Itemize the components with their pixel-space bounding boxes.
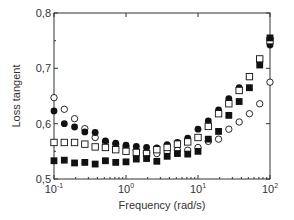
filled-square-marker <box>92 161 99 168</box>
x-tick-label: 102 <box>262 182 278 195</box>
open-circle-marker <box>246 111 252 117</box>
open-circle-icon <box>61 106 67 112</box>
open-square-icon <box>174 141 180 147</box>
open-circle-icon <box>236 119 242 125</box>
open-square-icon <box>123 148 129 154</box>
filled-square-icon <box>225 112 232 119</box>
open-square-marker <box>185 139 191 145</box>
filled-square-marker <box>112 159 119 166</box>
open-square-marker <box>226 101 232 107</box>
open-circle-icon <box>226 126 232 132</box>
filled-circle-marker <box>195 126 202 133</box>
filled-square-marker <box>81 159 88 166</box>
filled-square-marker <box>51 157 58 164</box>
data-points <box>51 35 274 168</box>
open-square-icon <box>82 141 88 147</box>
y-axis-ticks: 0,50,60,70,8 <box>36 7 270 185</box>
filled-square-marker <box>71 160 78 167</box>
filled-circle-icon <box>61 120 68 127</box>
filled-square-icon <box>71 160 78 167</box>
filled-square-marker <box>267 35 274 42</box>
open-square-icon <box>195 134 201 140</box>
filled-square-icon <box>267 35 274 42</box>
plot-frame <box>54 13 270 179</box>
x-tick-label: 100 <box>118 182 134 195</box>
open-circle-icon <box>246 111 252 117</box>
open-circle-marker <box>257 101 263 107</box>
open-square-marker <box>246 73 252 79</box>
filled-square-marker <box>256 62 263 69</box>
open-square-marker <box>133 149 139 155</box>
y-axis-title: Loss tangent <box>10 65 22 128</box>
filled-square-marker <box>102 157 109 164</box>
filled-square-icon <box>236 98 243 105</box>
filled-square-icon <box>256 62 263 69</box>
open-square-marker <box>164 144 170 150</box>
open-circle-icon <box>71 115 77 121</box>
filled-square-marker <box>174 150 181 157</box>
filled-square-icon <box>153 158 160 165</box>
filled-square-marker <box>164 153 171 160</box>
x-tick-label: 10-1 <box>45 182 64 195</box>
filled-square-marker <box>246 84 253 91</box>
filled-circle-marker <box>133 143 140 150</box>
filled-circle-icon <box>123 142 130 149</box>
filled-circle-icon <box>92 129 99 136</box>
open-square-marker <box>61 139 67 145</box>
filled-square-marker <box>215 128 222 135</box>
open-square-marker <box>51 139 57 145</box>
filled-square-icon <box>195 148 202 155</box>
filled-circle-marker <box>71 124 78 131</box>
filled-circle-marker <box>112 140 119 147</box>
open-square-marker <box>113 146 119 152</box>
filled-square-icon <box>205 136 212 143</box>
open-square-icon <box>51 139 57 145</box>
y-tick-label: 0,6 <box>36 118 51 130</box>
open-square-icon <box>246 73 252 79</box>
x-axis-ticks: 10-1100101102 <box>45 13 278 195</box>
filled-square-icon <box>112 159 119 166</box>
x-axis-title: Frequency (rad/s) <box>119 199 206 211</box>
open-circle-marker <box>61 106 67 112</box>
filled-circle-icon <box>81 129 88 136</box>
open-square-icon <box>185 139 191 145</box>
filled-circle-marker <box>123 142 130 149</box>
filled-square-marker <box>205 136 212 143</box>
filled-circle-marker <box>51 108 58 115</box>
filled-square-icon <box>123 158 130 165</box>
open-square-marker <box>174 141 180 147</box>
open-circle-icon <box>215 136 221 142</box>
open-square-icon <box>71 139 77 145</box>
open-square-marker <box>205 123 211 129</box>
filled-circle-marker <box>102 137 109 144</box>
open-square-marker <box>257 56 263 62</box>
open-circle-marker <box>267 79 273 85</box>
filled-square-marker <box>61 157 68 164</box>
open-square-icon <box>236 87 242 93</box>
open-circle-icon <box>257 101 263 107</box>
open-square-icon <box>164 144 170 150</box>
filled-square-marker <box>236 98 243 105</box>
filled-circle-icon <box>195 126 202 133</box>
filled-circle-marker <box>61 120 68 127</box>
open-square-marker <box>195 134 201 140</box>
open-square-icon <box>205 123 211 129</box>
filled-square-marker <box>153 158 160 165</box>
filled-square-icon <box>51 157 58 164</box>
filled-square-icon <box>184 151 191 158</box>
open-square-marker <box>123 148 129 154</box>
open-square-icon <box>102 144 108 150</box>
open-circle-marker <box>51 94 57 100</box>
open-circle-marker <box>215 136 221 142</box>
filled-square-marker <box>195 148 202 155</box>
y-tick-label: 0,8 <box>36 7 51 19</box>
open-square-marker <box>71 139 77 145</box>
filled-square-icon <box>92 161 99 168</box>
filled-square-icon <box>61 157 68 164</box>
open-circle-icon <box>51 94 57 100</box>
filled-square-icon <box>143 155 150 162</box>
open-circle-marker <box>226 126 232 132</box>
open-square-icon <box>113 146 119 152</box>
open-circle-icon <box>267 79 273 85</box>
plot-border <box>54 13 270 179</box>
